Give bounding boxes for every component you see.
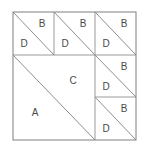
tile-top-left-lower-label: D xyxy=(20,38,27,49)
dissection-diagram: BDBDBDCABDBD xyxy=(0,0,147,149)
tile-top-left-upper-label: B xyxy=(39,18,46,29)
figure-root: BDBDBDCABDBD xyxy=(0,0,147,149)
tile-top-middle-lower-label: D xyxy=(61,38,68,49)
tile-top-right-upper-label: B xyxy=(121,18,128,29)
tile-right-middle-lower-label: D xyxy=(102,81,109,92)
tile-top-right-lower-label: D xyxy=(102,38,109,49)
tile-right-bottom-lower-label: D xyxy=(102,123,109,134)
tile-right-middle-upper-label: B xyxy=(121,61,128,72)
tile-right-bottom-upper-label: B xyxy=(121,103,128,114)
tile-top-middle-upper-label: B xyxy=(80,18,87,29)
tile-large-left-lower-label: A xyxy=(32,107,39,118)
tile-large-left-upper-label: C xyxy=(69,75,76,86)
